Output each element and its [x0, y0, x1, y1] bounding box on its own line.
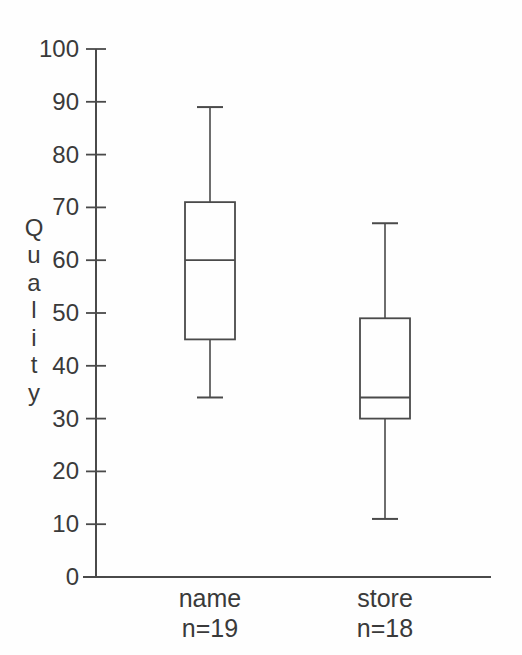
y-tick-label: 10: [52, 510, 79, 537]
y-tick-label: 30: [52, 405, 79, 432]
iqr-box-store: [360, 318, 410, 418]
y-tick-label: 20: [52, 457, 79, 484]
y-tick-label: 40: [52, 352, 79, 379]
category-count-label-name: n=19: [182, 614, 238, 642]
boxplot-chart: 0102030405060708090100Qualitynamen=19sto…: [0, 0, 522, 655]
y-tick-label: 0: [66, 563, 79, 590]
y-tick-label: 100: [39, 35, 79, 62]
iqr-box-name: [185, 202, 235, 339]
y-tick-label: 80: [52, 141, 79, 168]
category-label-store: store: [357, 584, 413, 612]
y-tick-label: 50: [52, 299, 79, 326]
y-axis-title-letter: Q: [25, 214, 44, 241]
category-count-label-store: n=18: [357, 614, 413, 642]
y-axis-title-letter: u: [27, 241, 40, 268]
category-label-name: name: [179, 584, 242, 612]
y-tick-label: 60: [52, 246, 79, 273]
y-axis-title-letter: a: [27, 269, 41, 296]
y-axis-title-letter: t: [31, 351, 38, 378]
y-axis-title-letter: i: [31, 324, 36, 351]
y-tick-label: 70: [52, 193, 79, 220]
y-axis-title-letter: y: [28, 379, 40, 406]
y-axis-title-letter: l: [31, 296, 36, 323]
boxplot-figure: 0102030405060708090100Qualitynamen=19sto…: [0, 0, 522, 655]
y-tick-label: 90: [52, 88, 79, 115]
